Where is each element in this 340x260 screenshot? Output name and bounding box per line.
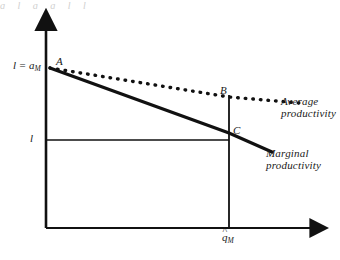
plot-canvas <box>0 0 340 260</box>
average-label-line1: Average <box>281 95 336 107</box>
marginal-label-line2: productivity <box>266 159 321 171</box>
point-label-b: B <box>220 84 227 96</box>
point-label-c: C <box>233 124 240 136</box>
productivity-diagram: q l q q l l l = aM l ^qM A <box>0 0 340 260</box>
curve-label-average-productivity: Average productivity <box>281 95 336 120</box>
curve-label-marginal-productivity: Marginal productivity <box>266 147 321 172</box>
marginal-label-line1: Marginal <box>266 147 321 159</box>
x-tick-label-qhat: ^qM <box>222 231 234 245</box>
curve-average-productivity <box>50 68 300 103</box>
y-intercept-label: l = aM <box>13 59 41 73</box>
y-axis-label-l: l <box>30 132 33 144</box>
hat-accent: ^ <box>222 225 227 236</box>
average-label-line2: productivity <box>281 107 336 119</box>
point-label-a: A <box>56 55 63 67</box>
